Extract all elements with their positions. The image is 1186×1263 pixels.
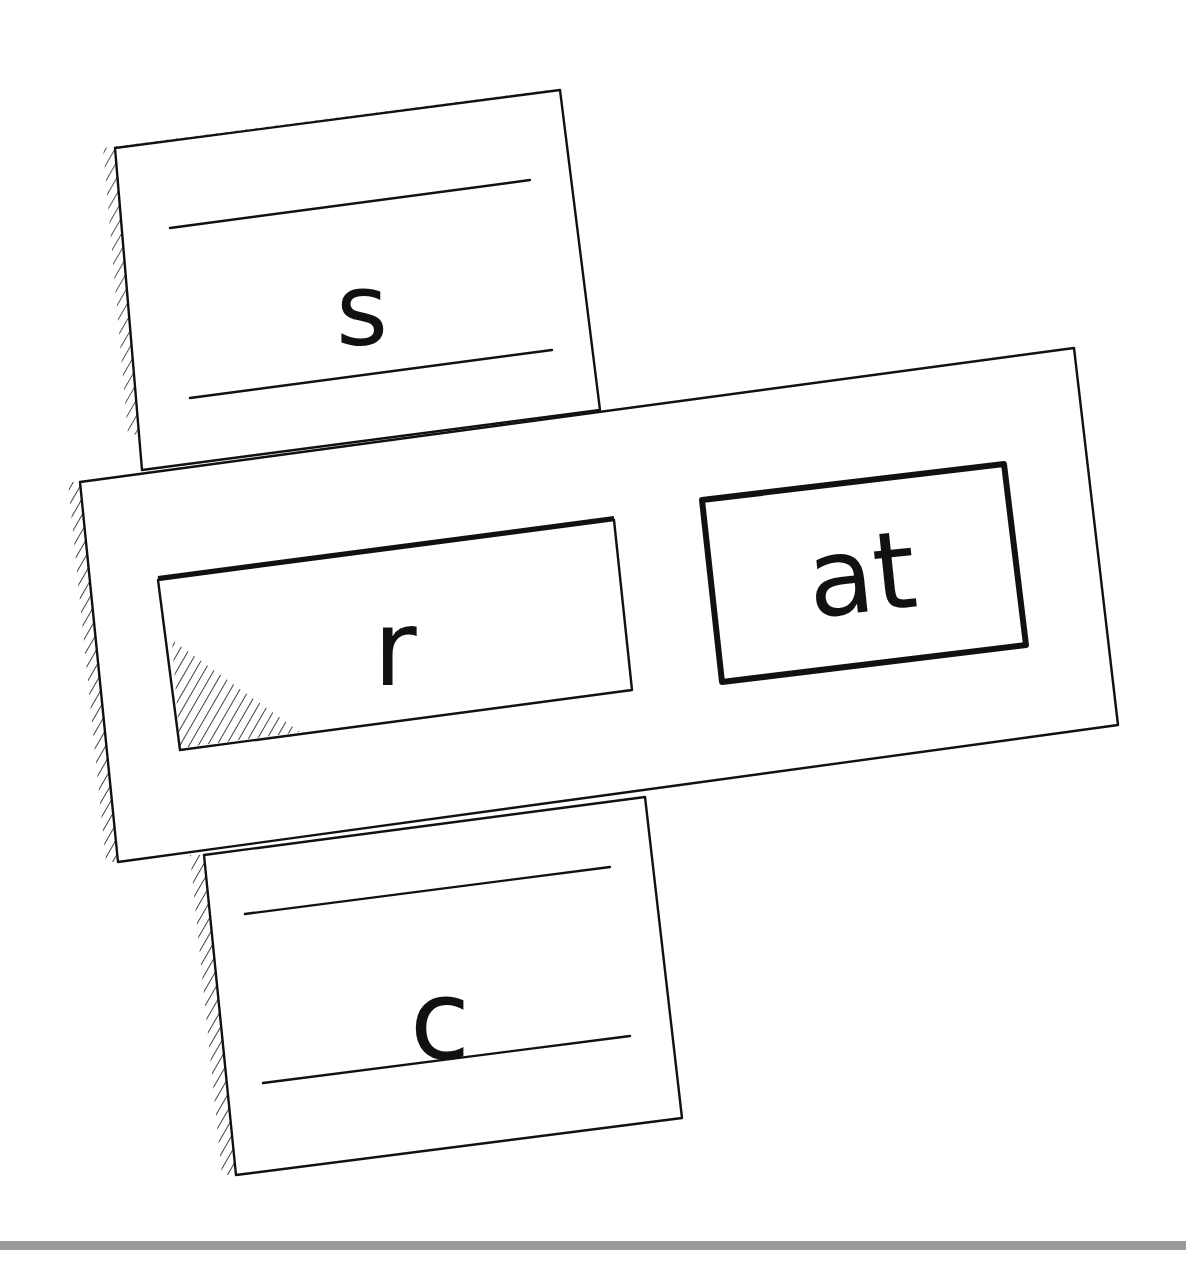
top-letter-card[interactable]: s	[103, 90, 600, 470]
word-ending-box: at	[702, 464, 1026, 682]
bottom-letter-card[interactable]: c	[190, 797, 682, 1175]
window-letter: r	[373, 588, 417, 710]
top-card-letter: s	[336, 252, 388, 369]
ending-text: at	[801, 507, 922, 643]
bottom-divider-bar	[0, 1241, 1186, 1250]
word-slider-diagram: s c r at	[0, 0, 1186, 1263]
bottom-card-letter: c	[410, 956, 470, 1084]
